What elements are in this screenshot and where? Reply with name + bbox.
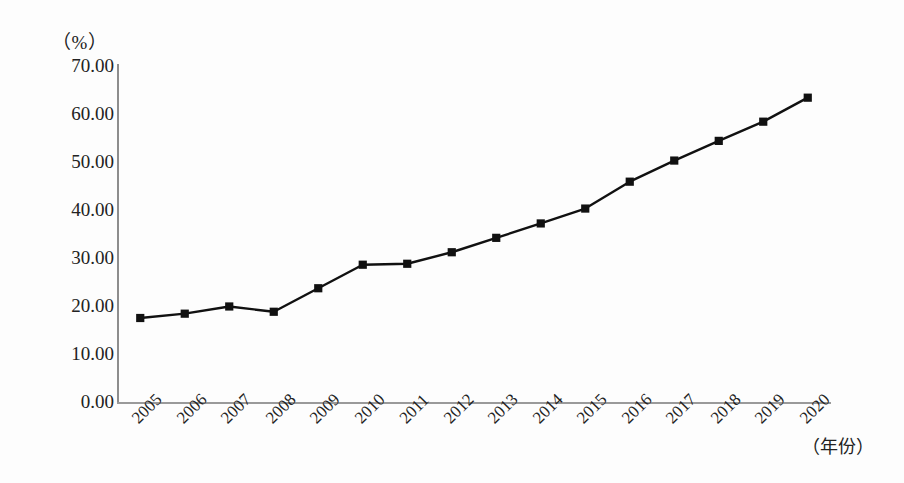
- x-axis-tick-label: 2013: [484, 390, 522, 428]
- x-axis-tick-label: 2014: [529, 390, 567, 428]
- x-axis-tick-label: 2010: [351, 390, 389, 428]
- x-axis-tick-label: 2005: [128, 390, 166, 428]
- x-axis-tick-label: 2011: [396, 390, 434, 428]
- x-axis-tick-label: 2009: [306, 390, 344, 428]
- x-axis-tick-label: 2015: [573, 390, 611, 428]
- x-axis-tick-label: 2017: [662, 390, 700, 428]
- x-axis-tick-labels: 2005200620072008200920102011201220132014…: [0, 0, 904, 483]
- line-chart: （%） 0.0010.0020.0030.0040.0050.0060.0070…: [0, 0, 904, 483]
- x-axis-tick-label: 2007: [217, 390, 255, 428]
- x-axis-tick-label: 2019: [751, 390, 789, 428]
- x-axis-tick-label: 2020: [796, 390, 834, 428]
- x-axis-tick-label: 2018: [707, 390, 745, 428]
- x-axis-tick-label: 2012: [440, 390, 478, 428]
- x-axis-tick-label: 2008: [262, 390, 300, 428]
- x-axis-tick-label: 2016: [618, 390, 656, 428]
- x-axis-tick-label: 2006: [173, 390, 211, 428]
- x-axis-title: （年份）: [802, 432, 874, 458]
